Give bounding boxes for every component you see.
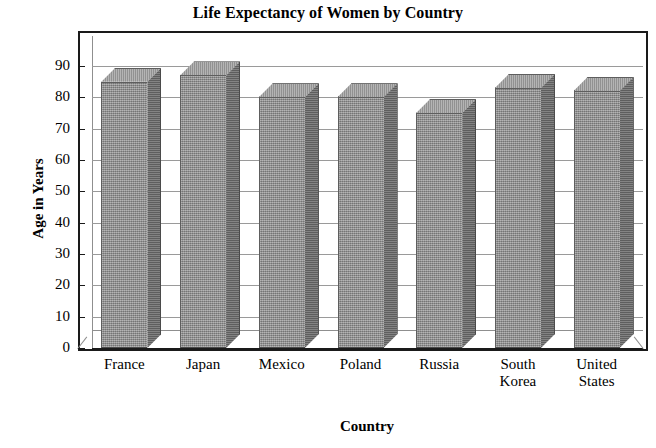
y-axis-ticks: 0102030405060708090	[22, 0, 70, 448]
bar-front-face	[101, 82, 147, 348]
y-tick-label-90: 90	[30, 58, 70, 73]
bar-front-face	[416, 113, 462, 348]
chart-figure: Life Expectancy of Women by Country Age …	[0, 0, 656, 448]
x-tick-label-mexico: Mexico	[237, 356, 327, 373]
y-tick-mark-10	[78, 317, 85, 318]
x-tick-label-united-states: UnitedStates	[552, 356, 642, 390]
bar-front-face	[338, 97, 384, 348]
y-tick-mark-20	[78, 285, 85, 286]
gridline-90	[92, 66, 643, 67]
y-tick-mark-70	[78, 129, 85, 130]
y-tick-label-20: 20	[30, 277, 70, 292]
x-axis-title: Country	[78, 418, 656, 435]
y-tick-label-60: 60	[30, 152, 70, 167]
bar-front-face	[574, 91, 620, 348]
y-tick-label-80: 80	[30, 89, 70, 104]
x-tick-label-line: Korea	[473, 373, 563, 390]
bar-south-korea	[495, 74, 555, 348]
bar-mexico	[259, 83, 319, 348]
y-tick-label-0: 0	[30, 340, 70, 355]
page-bottom-margin	[0, 434, 656, 448]
x-tick-label-poland: Poland	[316, 356, 406, 373]
y-tick-mark-50	[78, 191, 85, 192]
bar-united-states	[574, 77, 634, 348]
y-tick-label-70: 70	[30, 121, 70, 136]
bar-side-face	[462, 99, 476, 348]
bar-front-face	[259, 97, 305, 348]
bar-side-face	[541, 74, 555, 348]
x-tick-label-france: France	[79, 356, 169, 373]
floor-front-edge	[78, 349, 648, 351]
y-tick-label-10: 10	[30, 309, 70, 324]
bar-front-face	[495, 88, 541, 348]
x-tick-label-russia: Russia	[394, 356, 484, 373]
x-tick-label-line: Mexico	[237, 356, 327, 373]
y-tick-mark-30	[78, 254, 85, 255]
bar-side-face	[147, 68, 161, 348]
x-tick-label-south-korea: SouthKorea	[473, 356, 563, 390]
x-tick-label-japan: Japan	[158, 356, 248, 373]
y-tick-mark-40	[78, 223, 85, 224]
x-tick-label-line: South	[473, 356, 563, 373]
y-tick-label-40: 40	[30, 215, 70, 230]
x-tick-label-line: Poland	[316, 356, 406, 373]
bar-france	[101, 68, 161, 348]
bar-side-face	[620, 77, 634, 348]
x-tick-label-line: United	[552, 356, 642, 373]
y-tick-mark-0	[78, 348, 85, 349]
x-tick-label-line: France	[79, 356, 169, 373]
y-tick-label-30: 30	[30, 246, 70, 261]
y-tick-mark-60	[78, 160, 85, 161]
bar-side-face	[305, 83, 319, 348]
bar-front-face	[180, 75, 226, 348]
bar-side-face	[384, 83, 398, 348]
x-tick-label-line: States	[552, 373, 642, 390]
bar-russia	[416, 99, 476, 348]
x-tick-label-line: Japan	[158, 356, 248, 373]
floor-right-edge	[634, 337, 644, 349]
bar-poland	[338, 83, 398, 348]
chart-title: Life Expectancy of Women by Country	[0, 4, 656, 22]
x-tick-label-line: Russia	[394, 356, 484, 373]
y-tick-mark-80	[78, 97, 85, 98]
bar-side-face	[226, 61, 240, 348]
y-tick-label-50: 50	[30, 183, 70, 198]
bar-japan	[180, 61, 240, 348]
y-tick-mark-90	[78, 66, 85, 67]
